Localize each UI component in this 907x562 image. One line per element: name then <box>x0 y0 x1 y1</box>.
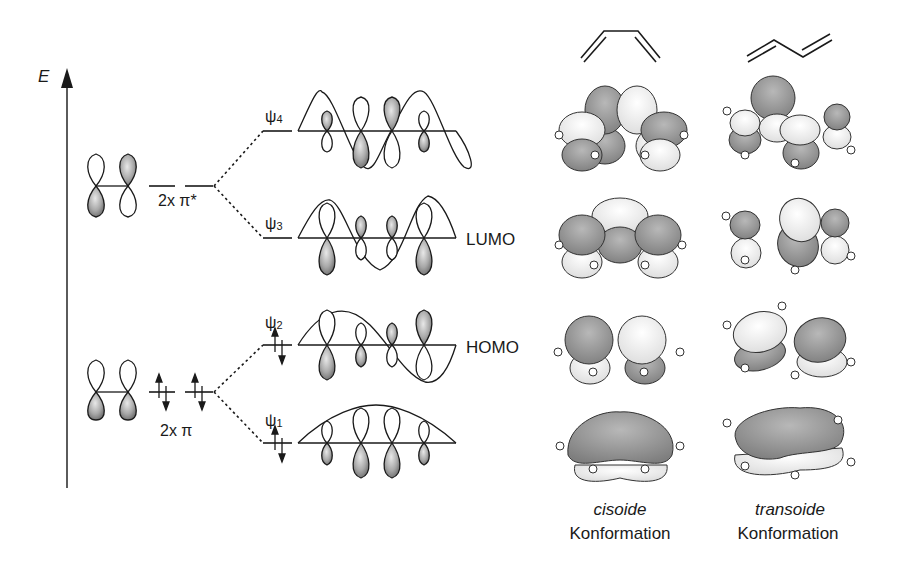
mo-psi3 <box>298 196 456 275</box>
correlation-lines <box>214 131 263 443</box>
lumo-label: LUMO <box>466 230 515 250</box>
transoid-structure <box>747 34 832 62</box>
psi3-symbol: ψ <box>265 215 276 232</box>
cisoid-psi4-surface <box>555 86 688 171</box>
mo-psi4 <box>298 91 471 169</box>
ethene-bonding-label: 2x π <box>160 422 192 440</box>
psi4-label: ψ4 <box>265 108 283 126</box>
cisoid-psi1-surface <box>556 412 684 482</box>
homo-label: HOMO <box>466 338 519 358</box>
diagram-canvas <box>0 0 907 562</box>
ethene-pi-orbitals <box>88 360 137 420</box>
butadiene-electron-pairs <box>272 328 285 462</box>
psi3-index: 3 <box>276 220 282 232</box>
psi1-symbol: ψ <box>265 412 276 429</box>
cisoid-structure <box>581 31 660 62</box>
ethene-pi-star-orbitals <box>88 154 137 217</box>
psi2-label: ψ2 <box>265 314 283 332</box>
psi3-label: ψ3 <box>265 215 283 233</box>
cisoid-name: cisoide <box>558 500 682 520</box>
psi1-index: 1 <box>276 417 282 429</box>
psi2-symbol: ψ <box>265 314 276 331</box>
ethene-antibonding-label: 2x π* <box>158 192 197 210</box>
transoid-name: transoide <box>725 500 855 520</box>
transoid-conformation-label: Konformation <box>718 524 858 544</box>
psi4-index: 4 <box>276 113 282 125</box>
butadiene-levels <box>263 131 292 443</box>
cisoid-psi2-surface <box>554 316 684 384</box>
mo-psi1 <box>298 405 456 478</box>
psi2-index: 2 <box>276 319 282 331</box>
psi1-label: ψ1 <box>265 412 283 430</box>
transoid-psi4-surface <box>723 76 855 169</box>
ethene-levels <box>149 186 213 392</box>
energy-axis-label: E <box>38 67 49 87</box>
psi4-symbol: ψ <box>265 108 276 125</box>
transoid-psi3-surface <box>722 192 855 274</box>
cisoid-psi3-surface <box>555 198 686 278</box>
energy-axis <box>61 68 73 488</box>
transoid-psi2-surface <box>723 302 855 379</box>
cisoid-conformation-label: Konformation <box>550 524 690 544</box>
mo-psi2 <box>298 310 456 382</box>
transoid-psi1-surface <box>723 408 855 479</box>
